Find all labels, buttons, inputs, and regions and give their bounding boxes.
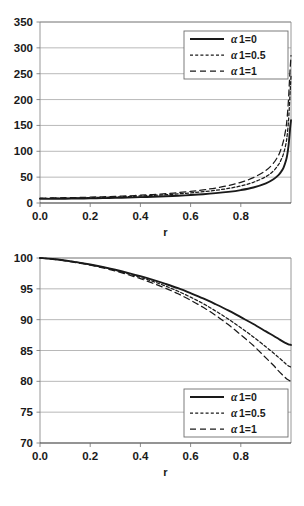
x-axis-title: r — [163, 466, 168, 478]
chart-bottom-panel: 7075808590951000.00.20.40.60.8rα 1=0α 1=… — [0, 253, 304, 506]
x-tick-label: 0.0 — [32, 210, 48, 222]
y-tick-label: 50 — [20, 171, 33, 183]
legend-label-alpha-1: α — [231, 407, 238, 419]
chart-top-svg: 0501001502002503003500.00.20.40.60.8rα 1… — [0, 0, 304, 253]
x-tick-label: 0.4 — [132, 450, 149, 462]
series-line-0 — [40, 258, 291, 345]
y-tick-label: 100 — [14, 253, 33, 264]
y-tick-label: 85 — [20, 345, 33, 357]
legend-label-alpha-1: α — [231, 49, 238, 61]
y-tick-label: 80 — [20, 375, 33, 387]
y-tick-label: 0 — [27, 197, 33, 209]
legend-label-1: 1=0.5 — [239, 407, 266, 419]
chart-bottom-svg: 7075808590951000.00.20.40.60.8rα 1=0α 1=… — [0, 253, 304, 506]
y-tick-label: 300 — [14, 42, 33, 54]
y-tick-label: 70 — [20, 437, 33, 449]
y-tick-label: 90 — [20, 314, 33, 326]
legend-label-alpha-0: α — [231, 391, 238, 403]
y-tick-label: 200 — [14, 94, 33, 106]
x-axis-title: r — [163, 226, 168, 238]
y-tick-label: 250 — [14, 68, 33, 80]
y-tick-label: 150 — [14, 119, 33, 131]
series-line-0 — [40, 120, 291, 199]
y-tick-label: 100 — [14, 145, 33, 157]
x-tick-label: 0.6 — [183, 450, 199, 462]
y-tick-label: 350 — [14, 16, 33, 28]
x-tick-label: 0.4 — [132, 210, 149, 222]
chart-top-panel: 0501001502002503003500.00.20.40.60.8rα 1… — [0, 0, 304, 253]
legend-label-2: 1=1 — [239, 65, 257, 77]
y-tick-label: 75 — [20, 406, 33, 418]
x-tick-label: 0.0 — [32, 450, 48, 462]
legend-label-1: 1=0.5 — [239, 49, 266, 61]
legend-label-0: 1=0 — [239, 33, 257, 45]
x-tick-label: 0.8 — [233, 450, 250, 462]
figure-container: 0501001502002503003500.00.20.40.60.8rα 1… — [0, 0, 304, 506]
x-tick-label: 0.8 — [233, 210, 250, 222]
legend-label-alpha-0: α — [231, 33, 238, 45]
y-tick-label: 95 — [20, 283, 33, 295]
legend-label-2: 1=1 — [239, 423, 257, 435]
series-line-1 — [40, 76, 291, 198]
legend-label-0: 1=0 — [239, 391, 257, 403]
legend-label-alpha-2: α — [231, 423, 238, 435]
legend-label-alpha-2: α — [231, 65, 238, 77]
x-tick-label: 0.2 — [82, 450, 98, 462]
x-tick-label: 0.2 — [82, 210, 98, 222]
x-tick-label: 0.6 — [183, 210, 199, 222]
